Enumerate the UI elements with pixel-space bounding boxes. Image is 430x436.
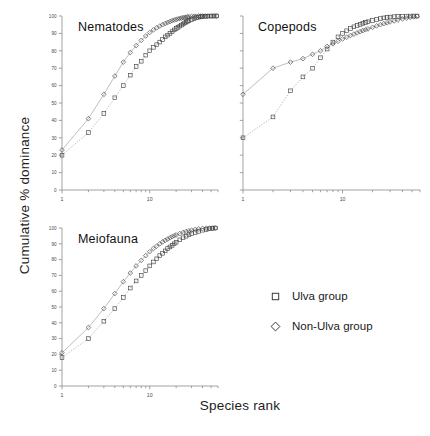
legend: Ulva group Non-Ulva group <box>262 281 373 341</box>
panel-meiofauna: 0102030405060708090100110 <box>49 226 218 398</box>
svg-text:1: 1 <box>61 196 64 202</box>
svg-text:10: 10 <box>340 196 346 202</box>
legend-item-non-ulva: Non-Ulva group <box>262 311 373 341</box>
panel-title-nematodes: Nematodes <box>78 20 144 34</box>
data-point-square <box>190 18 194 22</box>
legend-label-ulva: Ulva group <box>288 290 348 302</box>
series-line-square <box>243 16 417 138</box>
svg-text:0: 0 <box>54 188 57 193</box>
svg-text:100: 100 <box>49 14 57 19</box>
svg-text:0: 0 <box>54 384 57 389</box>
series-line-diamond <box>62 16 217 150</box>
panel-nematodes: 0102030405060708090100110 <box>49 14 219 202</box>
svg-text:30: 30 <box>51 136 57 141</box>
svg-text:10: 10 <box>51 368 57 373</box>
svg-text:10: 10 <box>147 392 153 398</box>
panel-title-meiofauna: Meiofauna <box>78 232 138 246</box>
y-axis-label: Cumulative % dominance <box>17 111 32 281</box>
svg-text:60: 60 <box>51 289 57 294</box>
svg-text:90: 90 <box>51 31 57 36</box>
svg-text:70: 70 <box>51 273 57 278</box>
panel-title-copepods: Copepods <box>258 20 317 34</box>
svg-text:10: 10 <box>51 170 57 175</box>
svg-text:50: 50 <box>51 101 57 106</box>
legend-item-ulva: Ulva group <box>262 281 373 311</box>
svg-text:1: 1 <box>242 196 245 202</box>
svg-text:40: 40 <box>51 321 57 326</box>
x-axis-label: Species rank <box>180 398 300 413</box>
svg-text:80: 80 <box>51 49 57 54</box>
data-point-square <box>345 29 349 33</box>
kdominance-figure: Cumulative % dominance Species rank Nema… <box>0 0 430 436</box>
series-line-square <box>62 16 217 155</box>
svg-text:80: 80 <box>51 257 57 262</box>
svg-text:40: 40 <box>51 118 57 123</box>
plot-surface: 0102030405060708090100110110010203040506… <box>0 0 430 436</box>
svg-text:90: 90 <box>51 242 57 247</box>
svg-text:30: 30 <box>51 336 57 341</box>
square-marker-icon <box>262 292 288 301</box>
data-point-square <box>128 73 132 77</box>
svg-text:20: 20 <box>51 153 57 158</box>
svg-text:60: 60 <box>51 83 57 88</box>
series-line-diamond <box>62 228 215 353</box>
svg-text:10: 10 <box>147 196 153 202</box>
svg-text:100: 100 <box>49 226 57 231</box>
panel-copepods: 110 <box>240 14 420 202</box>
legend-label-non-ulva: Non-Ulva group <box>288 320 373 332</box>
svg-text:20: 20 <box>51 352 57 357</box>
diamond-marker-icon <box>262 321 288 332</box>
svg-text:1: 1 <box>61 392 64 398</box>
svg-text:50: 50 <box>51 305 57 310</box>
series-line-square <box>62 228 215 358</box>
svg-text:70: 70 <box>51 66 57 71</box>
